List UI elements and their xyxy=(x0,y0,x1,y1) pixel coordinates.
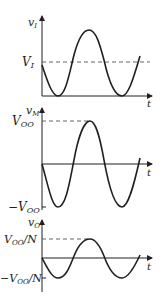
x-axis-label-t: t xyxy=(147,261,152,272)
level-label-vi: VI xyxy=(22,55,35,70)
y-axis-label-vo: vO xyxy=(28,216,40,230)
input-waveform xyxy=(42,30,140,96)
panel-input: vI VI t xyxy=(22,16,152,109)
x-axis-label-t: t xyxy=(147,98,152,109)
level-label-voo-n: VOO/N xyxy=(4,233,37,247)
waveform-diagram: vI VI t vM VOO −VOO t vO VOO/N −VOO/N t xyxy=(0,0,162,297)
x-axis-label-t: t xyxy=(147,167,152,178)
y-axis-label-vi: vI xyxy=(28,16,37,30)
panel-output: vO VOO/N −VOO/N t xyxy=(0,216,152,292)
level-label-neg-voo: −VOO xyxy=(8,200,40,215)
panel-mixer: vM VOO −VOO t xyxy=(8,104,152,215)
level-label-neg-voo-n: −VOO/N xyxy=(0,272,42,286)
y-axis-label-vm: vM xyxy=(26,104,40,118)
